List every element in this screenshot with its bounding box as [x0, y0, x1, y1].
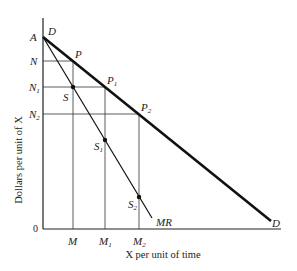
label-m: M: [67, 235, 78, 247]
point-s1: [103, 138, 107, 142]
point-s2: [137, 195, 141, 199]
label-p: P: [74, 48, 82, 60]
label-m1: M1: [98, 235, 112, 249]
label-d-end: D: [271, 217, 280, 229]
x-axis-title: X per unit of time: [125, 249, 201, 260]
origin-label: 0: [33, 223, 38, 234]
label-p1: P1: [106, 74, 117, 88]
label-s1: S1: [94, 140, 103, 154]
demand-mr-diagram: A D D MR N N1 N2 P P1 P2 S S1 S2 M M1 M2…: [0, 0, 297, 271]
label-n2: N2: [28, 108, 40, 122]
y-axis-title: Dollars per unit of X: [13, 116, 24, 204]
label-d-start: D: [47, 25, 56, 37]
label-n1: N1: [28, 81, 40, 95]
label-n: N: [29, 55, 38, 67]
mr-curve: [43, 37, 152, 218]
label-mr: MR: [155, 216, 172, 228]
label-a: A: [29, 31, 37, 43]
label-s2: S2: [128, 198, 138, 212]
label-m2: M2: [132, 235, 146, 249]
label-p2: P2: [140, 101, 152, 115]
point-s: [71, 85, 75, 89]
demand-curve: [43, 37, 271, 221]
label-s: S: [63, 91, 69, 103]
